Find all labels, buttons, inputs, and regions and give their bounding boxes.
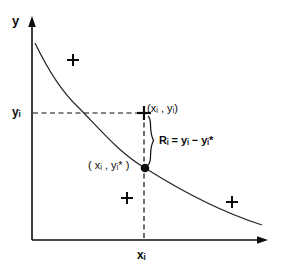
observed-point-label: (xᵢ , yᵢ) (147, 103, 178, 114)
y-axis-label: y (12, 14, 19, 27)
y-tick-label-yi: yᵢ (12, 106, 20, 118)
x-axis-label: xᵢ (137, 249, 145, 261)
fitted-point-label: ( xᵢ , yᵢ* ) (88, 160, 129, 171)
residual-plot-figure: y xᵢ yᵢ (xᵢ , yᵢ) ( xᵢ , yᵢ* ) Rᵢ = yᵢ −… (0, 0, 284, 273)
residual-equation-label: Rᵢ = yᵢ − yᵢ* (159, 135, 213, 146)
plot-canvas (0, 0, 284, 273)
y-axis (28, 16, 36, 240)
scatter-plus-marker-2 (121, 192, 133, 204)
x-axis (32, 236, 268, 244)
y-axis-arrowhead (28, 16, 36, 27)
residual-brace-icon (148, 116, 154, 165)
scatter-plus-marker-1 (67, 54, 79, 66)
fitted-curve (35, 43, 262, 225)
x-axis-arrowhead (257, 236, 268, 244)
scatter-plus-marker-3 (226, 196, 238, 208)
